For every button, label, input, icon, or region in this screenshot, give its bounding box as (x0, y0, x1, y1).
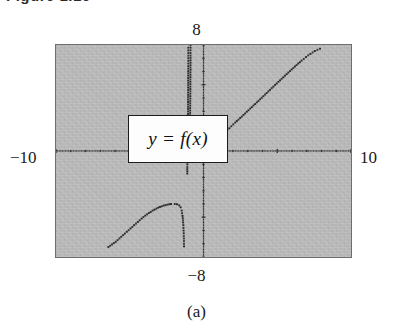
graph-plot-frame: y = f(x) (55, 44, 352, 258)
equation-label-text: y = f(x) (148, 128, 208, 150)
axis-label-xmin: −10 (10, 148, 37, 168)
axis-label-xmax: 10 (360, 148, 377, 168)
axis-label-ymax: 8 (0, 20, 393, 40)
figure-sub-caption: (a) (0, 302, 393, 322)
figure-header: Figure 1.16 (6, 0, 91, 4)
equation-label-box: y = f(x) (128, 115, 228, 163)
axis-label-ymin: −8 (0, 266, 393, 286)
